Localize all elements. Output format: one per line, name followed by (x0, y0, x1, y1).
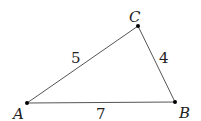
label-c: C (129, 8, 141, 26)
triangle-diagram: C A B 5 4 7 (0, 0, 201, 121)
label-a: A (11, 105, 24, 121)
point-a (25, 101, 29, 105)
label-b: B (178, 104, 190, 121)
side-ab (27, 102, 175, 103)
point-b (173, 100, 177, 104)
side-ac (27, 26, 138, 103)
label-side-ab: 7 (96, 105, 106, 121)
label-side-ac: 5 (71, 49, 81, 67)
label-side-cb: 4 (159, 49, 169, 67)
side-cb (138, 26, 175, 102)
